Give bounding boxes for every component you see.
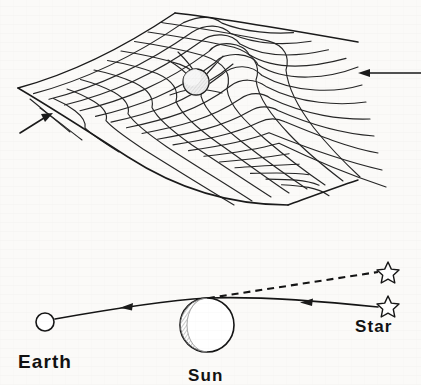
star-apparent (377, 262, 399, 283)
ray-arrowhead-left (120, 303, 133, 311)
figure-root: Earth Sun Star (0, 0, 421, 385)
right-incoming-arrow (358, 69, 421, 77)
star-label: Star (355, 317, 392, 336)
sun-label: Sun (188, 366, 223, 385)
light-bending-panel: Earth Sun Star (18, 262, 399, 385)
spacetime-grid-panel (18, 13, 421, 205)
earth-label: Earth (18, 351, 72, 372)
mass-sphere (183, 68, 209, 95)
earth (36, 313, 54, 331)
physics-figure: Earth Sun Star (0, 0, 421, 385)
apparent-light-path (196, 272, 378, 300)
star-actual (377, 296, 399, 317)
left-incoming-arrow (20, 113, 53, 133)
sun (180, 298, 234, 352)
grid-mesh (18, 13, 386, 205)
